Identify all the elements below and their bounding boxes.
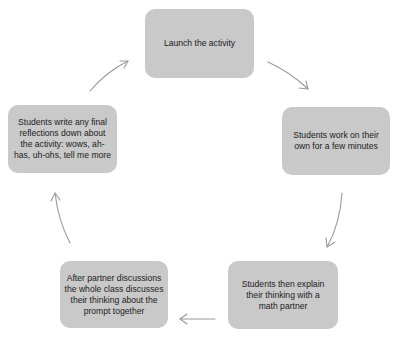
step-text: Students work on their own for a few min… (292, 130, 380, 152)
step-launch-activity: Launch the activity (145, 9, 254, 78)
arrow-step2-to-step3 (326, 193, 342, 247)
arrow-step5-to-step1 (90, 61, 128, 91)
step-work-on-own: Students work on their own for a few min… (282, 107, 390, 175)
step-final-reflections: Students write any final reflections dow… (8, 105, 117, 173)
step-whole-class-discussion: After partner discussions the whole clas… (60, 261, 168, 328)
step-text: Students then explain their thinking wit… (236, 279, 330, 312)
arrow-step4-to-step5 (51, 193, 70, 243)
step-text: After partner discussions the whole clas… (64, 273, 164, 317)
step-text: Launch the activity (164, 38, 235, 49)
step-explain-with-partner: Students then explain their thinking wit… (228, 261, 338, 329)
arrow-step1-to-step2 (268, 62, 308, 89)
cycle-diagram: Launch the activity Students work on the… (0, 0, 400, 338)
arrow-step3-to-step4 (180, 314, 215, 324)
step-text: Students write any final reflections dow… (13, 117, 112, 161)
